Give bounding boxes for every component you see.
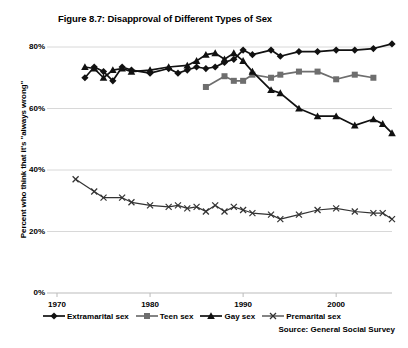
legend-label: Teen sex [160,312,194,321]
series-teen-sex [203,69,377,90]
square-marker-icon [277,72,283,78]
square-marker-icon [370,75,376,81]
x-marker-icon [91,189,97,195]
figure-container: Figure 8.7: Disapproval of Different Typ… [0,0,408,348]
source-note: Source: General Social Survey [279,325,396,334]
square-marker-icon [333,76,339,82]
square-marker-icon [268,75,274,81]
series-line [85,53,392,133]
square-marker-icon [203,84,209,90]
diamond-marker-icon [202,65,209,72]
diamond-marker-icon [351,46,358,53]
legend-label: Extramarital sex [67,312,129,321]
diamond-marker-icon [333,46,340,53]
legend-label: Premarital sex [286,312,341,321]
diamond-marker-icon [388,40,395,47]
x-marker-icon [73,176,79,182]
legend-item-gay-sex[interactable]: Gay sex [200,311,255,321]
triangle-marker-icon [200,311,222,321]
diamond-marker-icon [370,45,377,52]
square-marker-icon [136,311,158,321]
series-line [85,44,392,81]
x-marker-icon [222,209,228,215]
legend-item-teen-sex[interactable]: Teen sex [136,311,194,321]
triangle-marker-icon [370,115,378,122]
chart-legend: Extramarital sexTeen sexGay sexPremarita… [43,311,393,321]
diamond-marker-icon [43,311,65,321]
x-marker-icon [203,209,209,215]
diamond-marker-icon [193,63,200,70]
diamond-marker-icon [50,312,57,319]
x-marker-icon [389,216,395,222]
square-marker-icon [352,72,358,78]
diamond-marker-icon [174,70,181,77]
square-marker-icon [296,69,302,75]
x-marker-icon [231,204,237,210]
diamond-marker-icon [314,48,321,55]
data-series-layer [73,40,396,222]
series-gay-sex [81,49,396,136]
plot-area [0,0,408,348]
square-marker-icon [315,69,321,75]
series-premarital-sex [73,176,395,222]
legend-item-premarital-sex[interactable]: Premarital sex [262,311,341,321]
legend-item-extramarital-sex[interactable]: Extramarital sex [43,311,129,321]
x-marker-icon [262,311,284,321]
triangle-marker-icon [230,49,238,56]
square-marker-icon [240,78,246,84]
legend-label: Gay sex [224,312,255,321]
square-marker-icon [231,78,237,84]
x-marker-icon [240,207,246,213]
square-marker-icon [144,313,150,319]
gridlines [47,47,392,297]
diamond-marker-icon [295,48,302,55]
x-marker-icon [212,202,218,208]
diamond-marker-icon [212,63,219,70]
diamond-marker-icon [249,51,256,58]
square-marker-icon [222,73,228,79]
